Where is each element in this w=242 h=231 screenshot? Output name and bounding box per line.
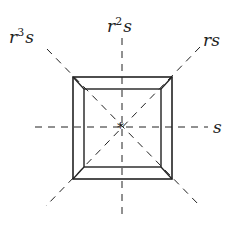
label-r3s: r3s <box>9 26 34 47</box>
label-s: s <box>213 117 222 137</box>
square-symmetry-diagram: * r3s r2s rs s <box>0 0 242 231</box>
center-mark: * <box>117 120 124 136</box>
label-r2s: r2s <box>107 15 132 36</box>
label-rs: rs <box>203 30 220 50</box>
